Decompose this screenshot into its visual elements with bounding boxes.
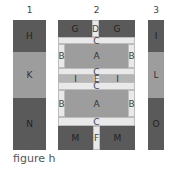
column-2: G D G C B A B C J E J C B A B C M F M [58, 20, 135, 150]
block-o: O [148, 98, 164, 150]
sash-c-3: C [58, 82, 135, 90]
block-a-lower: A [65, 90, 128, 117]
column-1-number: 1 [13, 5, 46, 15]
strip-d: D [92, 20, 99, 37]
strip-f: F [93, 126, 100, 150]
column-3-number: 3 [148, 5, 164, 15]
strip-b-upper-left: B [58, 44, 65, 68]
block-i: I [148, 20, 164, 52]
block-n: N [13, 98, 46, 150]
block-l: L [148, 52, 164, 98]
strip-b-lower-right: B [128, 90, 135, 117]
block-g-right: G [99, 20, 135, 37]
figure-caption: figure h [13, 152, 55, 165]
band-j-right: J [100, 75, 135, 82]
block-m-right: M [100, 126, 135, 150]
block-m-left: M [58, 126, 93, 150]
strip-b-upper-right: B [128, 44, 135, 68]
column-2-number: 2 [58, 5, 135, 15]
block-h: H [13, 20, 46, 52]
block-g-left: G [58, 20, 92, 37]
column-3: I L O [148, 20, 164, 150]
block-a-upper: A [65, 44, 128, 68]
strip-b-lower-left: B [58, 90, 65, 117]
band-j-left: J [58, 75, 93, 82]
column-1: H K N [13, 20, 46, 150]
block-k: K [13, 52, 46, 98]
sash-c-4: C [58, 117, 135, 126]
sash-c-1: C [58, 37, 135, 44]
